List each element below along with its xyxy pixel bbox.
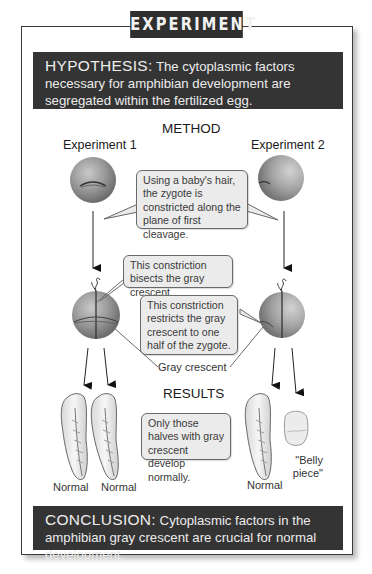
zygote-exp1-top [70,157,116,203]
zygote-exp2-top [258,155,304,201]
method-heading: METHOD [162,121,221,136]
gray-crescent-label: Gray crescent [158,361,226,373]
experiment-title: EXPERIMENT [130,11,243,38]
conclusion-banner: CONCLUSION: Cytoplasmic factors in the a… [33,506,343,550]
embryo-normal-3 [245,394,271,480]
zygote-exp1-constricted [72,278,120,339]
zygote-exp2-constricted [259,279,305,338]
embryo-normal-2 [91,394,118,480]
experiment1-label: Experiment 1 [63,138,137,152]
callout-constriction-method: Using a baby's hair, the zygote is const… [136,170,248,229]
belly-piece [284,411,308,445]
callout-results: Only those halves with gray crescent dev… [141,413,231,460]
callout-restricts-gray-crescent: This constriction restricts the gray cre… [140,295,238,355]
conclusion-keyword: CONCLUSION: [45,511,156,528]
outcome-exp1-right: Normal [101,481,136,493]
outcome-exp2-left: Normal [247,479,282,491]
outcome-exp1-left: Normal [53,481,88,493]
hypothesis-keyword: HYPOTHESIS: [45,57,153,74]
callout-bisects-gray-crescent: This constriction bisects the gray cresc… [123,255,233,288]
hypothesis-banner: HYPOTHESIS: The cytoplasmic factors nece… [33,52,343,109]
outcome-exp2-right: "Belly piece" [283,454,323,480]
experiment2-label: Experiment 2 [251,138,325,152]
results-heading: RESULTS [163,386,224,401]
embryo-normal-1 [61,394,87,480]
